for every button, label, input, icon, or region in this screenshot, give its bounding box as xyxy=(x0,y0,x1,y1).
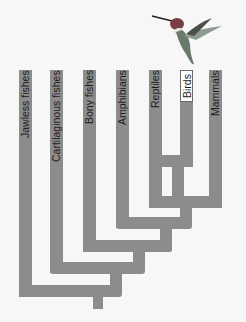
label-mammals: Mammals xyxy=(209,70,222,125)
node-bony-vertebrates xyxy=(83,240,172,252)
label-cartilaginous-fishes: Cartilaginous fishes xyxy=(50,70,63,185)
node-tetrapods xyxy=(116,217,192,229)
label-reptiles: Reptiles xyxy=(149,70,162,116)
hummingbird-icon xyxy=(150,6,230,66)
root-stem xyxy=(93,290,103,309)
label-amphibians: Amphibians xyxy=(116,70,129,130)
node-vertebrates-root xyxy=(19,285,122,297)
label-birds: Birds xyxy=(180,70,193,102)
label-bony-fishes: Bony fishes xyxy=(83,70,96,132)
label-jawless-fishes: Jawless fishes xyxy=(19,70,32,160)
node-jawed-vertebrates xyxy=(50,262,145,274)
stem-reptiles-birds xyxy=(172,160,184,198)
cladogram: Jawless fishes Cartilaginous fishes Bony… xyxy=(0,0,246,322)
